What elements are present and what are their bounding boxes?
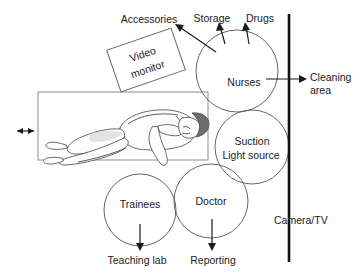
nurses-label: Nurses — [227, 76, 260, 88]
teaching-lab-label: Teaching lab — [108, 254, 167, 266]
cleaning-area-label-line2: area — [310, 84, 331, 96]
patient-figure — [44, 110, 209, 165]
arrow-to-teaching-lab — [136, 224, 144, 251]
endoscopy-room-diagram: Video monitor Nurses Suction Light sourc… — [0, 0, 364, 273]
reporting-label: Reporting — [190, 254, 236, 266]
cleaning-area-label-line1: Cleaning — [310, 71, 352, 83]
doctor-label: Doctor — [196, 195, 227, 207]
trainees-label: Trainees — [120, 198, 160, 210]
camera-tv-label: Camera/TV — [274, 214, 328, 226]
suction-label-line2: Light source — [222, 149, 279, 161]
arrow-to-accessories — [175, 24, 216, 52]
patient-foot-upper — [46, 142, 67, 149]
video-monitor-zone: Video monitor — [107, 28, 186, 92]
arrow-to-cleaning-area — [266, 75, 307, 83]
storage-label: Storage — [194, 12, 231, 24]
arrow-to-drugs — [242, 22, 250, 44]
table-movement-arrow — [17, 128, 34, 134]
diagram-canvas: Video monitor Nurses Suction Light sourc… — [0, 0, 364, 273]
accessories-label: Accessories — [121, 13, 178, 25]
drugs-label: Drugs — [246, 12, 274, 24]
suction-light-source-circle — [215, 110, 289, 184]
nurses-circle — [196, 30, 278, 112]
arrow-to-reporting — [208, 219, 216, 251]
suction-label-line1: Suction — [234, 135, 269, 147]
